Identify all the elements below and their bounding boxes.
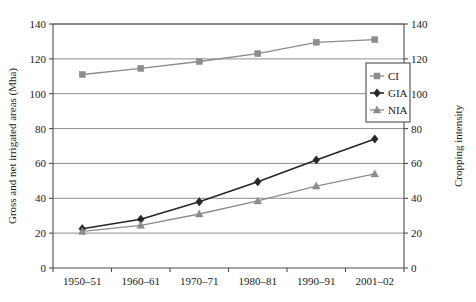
y-axis-left-tick-label: 100 xyxy=(30,88,47,100)
chart-background xyxy=(0,0,476,302)
data-point-ci xyxy=(255,51,261,57)
y-axis-right-tick-label: 40 xyxy=(411,192,423,204)
x-axis-tick-label: 1960–61 xyxy=(122,275,161,287)
legend-label: NIA xyxy=(388,104,408,116)
y-axis-right-tick-label: 60 xyxy=(411,157,423,169)
y-axis-right-tick-label: 140 xyxy=(411,18,428,30)
legend-label: GIA xyxy=(388,87,408,99)
y-axis-left-tick-label: 20 xyxy=(35,227,47,239)
x-axis-tick-label: 1950–51 xyxy=(63,275,102,287)
data-point-ci xyxy=(372,37,378,43)
y-axis-right-tick-label: 20 xyxy=(411,227,423,239)
y-axis-right-tick-label: 120 xyxy=(411,53,428,65)
legend-marker-square xyxy=(374,73,380,79)
x-axis-tick-label: 1990–91 xyxy=(297,275,336,287)
y-axis-right-title: Cropping intensity xyxy=(452,104,464,187)
chart-container: 020406080100120140 020406080100120140 19… xyxy=(0,0,476,302)
y-axis-right-tick-label: 100 xyxy=(411,88,428,100)
y-axis-left-tick-label: 0 xyxy=(41,262,47,274)
data-point-ci xyxy=(196,59,202,65)
y-axis-left-tick-label: 40 xyxy=(35,192,47,204)
x-axis-tick-label: 2001–02 xyxy=(356,275,395,287)
y-axis-right-tick-label: 80 xyxy=(411,123,423,135)
legend-box[interactable]: CIGIANIA xyxy=(366,63,410,122)
y-axis-left-title: Gross and net irrigated areas (Mha) xyxy=(6,68,19,224)
y-axis-left-tick-label: 80 xyxy=(35,123,47,135)
legend-label: CI xyxy=(388,70,399,82)
y-axis-left-tick-label: 60 xyxy=(35,157,47,169)
y-axis-left-tick-label: 140 xyxy=(30,18,47,30)
y-axis-left-tick-label: 120 xyxy=(30,53,47,65)
y-axis-right-tick-label: 0 xyxy=(411,262,417,274)
data-point-ci xyxy=(138,65,144,71)
x-axis-tick-label: 1980–81 xyxy=(239,275,278,287)
data-point-ci xyxy=(313,39,319,45)
line-chart: 020406080100120140 020406080100120140 19… xyxy=(0,0,476,302)
data-point-ci xyxy=(79,72,85,78)
x-axis-tick-label: 1970–71 xyxy=(180,275,219,287)
